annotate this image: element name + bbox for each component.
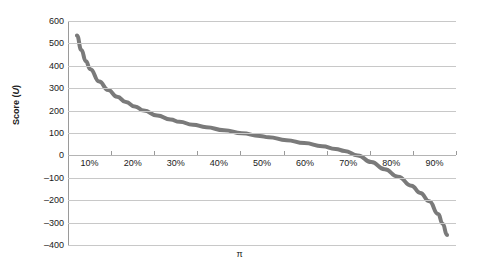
plot-area: 10%20%30%40%50%60%70%80%90% <box>68 21 456 245</box>
x-axis-title: π <box>0 249 479 259</box>
gridline-y-0 <box>68 155 456 156</box>
gridline-y-100 <box>68 133 456 134</box>
y-axis-tick-labels: 6005004003002001000–100–200–300–400 <box>14 21 64 245</box>
gridline-y-500 <box>68 43 456 44</box>
chart-container: Score (U) 6005004003002001000–100–200–30… <box>0 0 479 271</box>
gridline-y--400 <box>68 245 456 246</box>
x-tick-label-80%: 80% <box>382 158 400 168</box>
y-tick-label--300: –300 <box>18 218 64 228</box>
x-tick-50% <box>240 151 241 155</box>
x-tick-10% <box>68 151 69 155</box>
y-tick-label-600: 600 <box>18 16 64 26</box>
x-tick-40% <box>197 151 198 155</box>
gridline-y-200 <box>68 111 456 112</box>
gridline-y--100 <box>68 178 456 179</box>
x-tick-label-70%: 70% <box>339 158 357 168</box>
y-tick-label-400: 400 <box>18 61 64 71</box>
gridline-y-300 <box>68 88 456 89</box>
y-tick-label-100: 100 <box>18 128 64 138</box>
x-tick-70% <box>327 151 328 155</box>
x-tick-20% <box>111 151 112 155</box>
y-tick-label--100: –100 <box>18 173 64 183</box>
gridline-y-600 <box>68 21 456 22</box>
x-tick-label-60%: 60% <box>296 158 314 168</box>
y-tick-label--200: –200 <box>18 195 64 205</box>
x-tick-label-40%: 40% <box>210 158 228 168</box>
x-tick-label-10%: 10% <box>81 158 99 168</box>
y-tick-label-200: 200 <box>18 106 64 116</box>
x-tick-60% <box>284 151 285 155</box>
x-tick-80% <box>370 151 371 155</box>
x-tick-label-20%: 20% <box>124 158 142 168</box>
gridline-y--300 <box>68 223 456 224</box>
gridline-y--200 <box>68 200 456 201</box>
y-tick-label-300: 300 <box>18 83 64 93</box>
x-tick-30% <box>154 151 155 155</box>
x-tick-label-90%: 90% <box>425 158 443 168</box>
gridline-y-400 <box>68 66 456 67</box>
y-tick-label-500: 500 <box>18 38 64 48</box>
y-tick-label-0: 0 <box>18 150 64 160</box>
x-tick-end <box>456 151 457 155</box>
x-tick-label-50%: 50% <box>253 158 271 168</box>
x-tick-label-30%: 30% <box>167 158 185 168</box>
x-tick-90% <box>413 151 414 155</box>
